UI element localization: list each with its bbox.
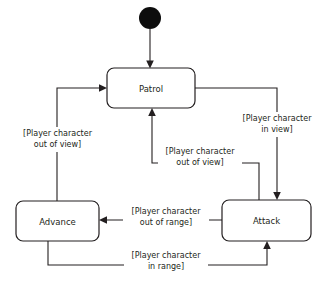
state-node-attack[interactable]: Attack bbox=[222, 200, 311, 241]
state-label-patrol: Patrol bbox=[139, 84, 163, 94]
arrow-head-attack-to-patrol bbox=[148, 108, 156, 116]
transition-patrol-to-attack bbox=[195, 88, 281, 200]
guard-label-line1: [Player character bbox=[132, 207, 202, 216]
arrow-head-advance-to-attack bbox=[263, 241, 271, 249]
guard-label-line1: [Player character bbox=[23, 129, 93, 138]
state-label-attack: Attack bbox=[253, 216, 280, 226]
guard-label-advance-to-patrol: [Player character out of view] bbox=[17, 127, 98, 152]
state-node-advance[interactable]: Advance bbox=[16, 201, 99, 241]
transition-start-to-patrol bbox=[146, 29, 154, 69]
diagram-canvas: Patrol Advance Attack [Player character … bbox=[0, 0, 328, 288]
state-label-advance: Advance bbox=[39, 217, 76, 227]
edge-path-patrol-to-attack bbox=[195, 88, 277, 194]
guard-label-line1: [Player character bbox=[166, 147, 236, 156]
arrow-head-attack-to-advance bbox=[99, 216, 107, 224]
guard-label-line2: out of view] bbox=[176, 158, 223, 167]
guard-label-line2: out of range] bbox=[140, 218, 192, 227]
guard-label-line2: out of view] bbox=[34, 140, 81, 149]
guard-label-patrol-to-attack: [Player character in view] bbox=[236, 112, 318, 137]
arrow-head-advance-to-patrol bbox=[99, 84, 107, 92]
arrow-head-patrol-to-attack bbox=[273, 192, 281, 200]
guard-label-attack-to-advance: [Player character out of range] bbox=[123, 205, 209, 230]
guard-label-line1: [Player character bbox=[132, 251, 202, 260]
uml-state-diagram: Patrol Advance Attack [Player character … bbox=[0, 0, 328, 288]
guard-label-line1: [Player character bbox=[243, 114, 313, 123]
guard-label-line2: in view] bbox=[261, 125, 292, 134]
arrow-head-start-to-patrol bbox=[146, 61, 154, 69]
guard-label-advance-to-attack: [Player character in range] bbox=[124, 249, 208, 274]
initial-pseudostate[interactable] bbox=[139, 7, 161, 29]
state-node-patrol[interactable]: Patrol bbox=[107, 68, 195, 108]
guard-label-attack-to-patrol: [Player character out of view] bbox=[158, 145, 242, 170]
guard-label-line2: in range] bbox=[148, 262, 184, 271]
